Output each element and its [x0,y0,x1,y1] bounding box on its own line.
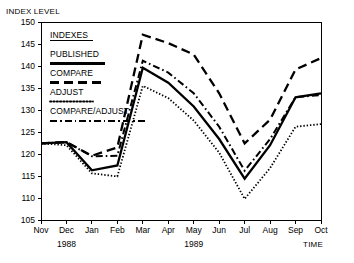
x-axis-tick-label: Nov [33,225,49,235]
x-axis-tick-label: Jan [85,225,99,235]
legend-label-adjust: ADJUST [50,87,84,97]
x-axis-tick-label: Feb [110,225,125,235]
x-axis-tick-label: Mar [135,225,150,235]
x-axis-title: TIME [303,240,323,249]
chart-canvas: 105110115120125130135140145150NovDecJanF… [0,0,354,263]
y-axis-title: INDEX LEVEL [6,7,60,16]
legend-label-compare-adjust: COMPARE/ADJUST [50,106,129,116]
y-axis-tick-label: 140 [21,61,35,71]
y-axis-tick-label: 115 [21,171,35,181]
x-axis-tick-label: Jul [239,225,250,235]
legend-title: INDEXES [50,30,88,40]
x-axis-group-label: 1989 [184,239,203,249]
y-axis-tick-label: 110 [21,193,35,203]
x-axis-tick-label: Sep [288,225,303,235]
y-axis-tick-label: 120 [21,149,35,159]
legend-label-compare: COMPARE [50,68,93,78]
y-axis-tick-label: 150 [21,17,35,27]
y-axis-tick-label: 125 [21,127,35,137]
x-axis-tick-label: Jun [212,225,226,235]
x-axis-tick-label: Apr [162,225,175,235]
y-axis-tick-label: 145 [21,39,35,49]
x-axis-tick-label: Oct [314,225,328,235]
x-axis-group-label: 1988 [57,239,76,249]
x-axis-tick-label: Aug [263,225,278,235]
y-axis-tick-label: 130 [21,105,35,115]
y-axis-tick-label: 105 [21,215,35,225]
legend-label-published: PUBLISHED [50,49,99,59]
x-axis-tick-label: May [186,225,203,235]
index-level-line-chart: 105110115120125130135140145150NovDecJanF… [0,0,354,263]
x-axis-tick-label: Dec [59,225,75,235]
y-axis-tick-label: 135 [21,83,35,93]
